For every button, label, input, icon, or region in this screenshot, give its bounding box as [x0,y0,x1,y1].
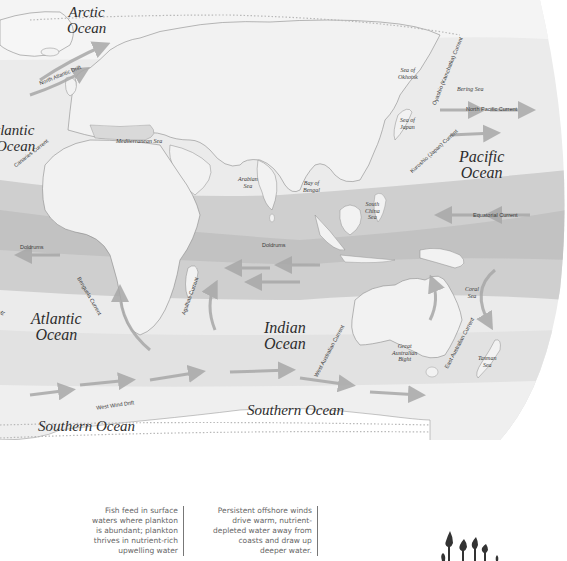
trees-illustration [440,527,567,561]
label-sea-of-okhotsk: Sea ofOkhotsk [398,67,418,80]
caption-offshore-winds: Persistent offshore winds drive warm, nu… [213,506,318,556]
label-south-china-sea: SouthChinaSea [365,201,380,221]
label-equatorial-current: Equatorial Current [473,212,518,218]
label-doldrums-indian: Doldrums [262,242,286,248]
label-bering-sea: Bering Sea [457,86,484,93]
label-southern-ocean-1: Southern Ocean [38,418,135,434]
label-north-pacific-current: North Pacific Current [466,106,517,112]
label-great-australian-bight: GreatAustralianBight [392,343,417,363]
ocean-currents-map [0,0,567,470]
label-pacific-ocean: PacificOcean [459,149,504,181]
caption-fish-feed: Fish feed in surface waters where plankt… [92,506,184,556]
label-indian-ocean: IndianOcean [264,320,306,352]
label-mediterranean-sea: Mediterranean Sea [116,138,162,145]
label-coral-sea: CoralSea [465,286,479,299]
label-arctic-ocean: ArcticOcean [67,4,106,36]
label-tasman-sea: TasmanSea [478,355,496,368]
label-doldrums-atlantic: Doldrums [20,244,44,250]
label-arabian-sea: ArabianSea [238,176,258,189]
label-atlantic-ocean-south: AtlanticOcean [31,311,82,343]
label-southern-ocean-2: Southern Ocean [247,402,344,418]
label-sea-of-japan: Sea ofJapan [400,117,415,130]
label-bay-of-bengal: Bay ofBengal [303,180,320,193]
